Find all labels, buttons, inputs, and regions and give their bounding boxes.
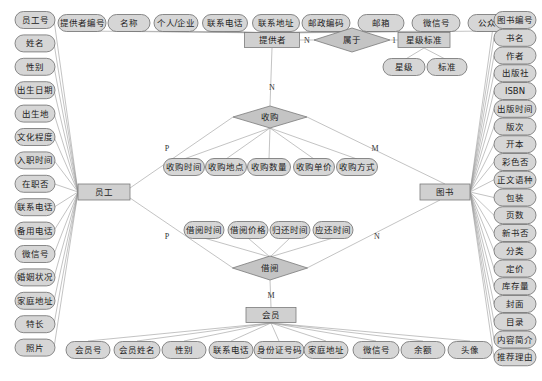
book-attribute[interactable]: 出版社 <box>494 65 536 82</box>
book-attribute[interactable]: 正文语种 <box>494 171 536 188</box>
connector-line <box>271 323 470 341</box>
book-attribute[interactable]: 推荐理由 <box>494 349 536 366</box>
member-attribute[interactable]: 微信号 <box>353 342 399 359</box>
member-attribute[interactable]: 家庭地址 <box>304 342 348 359</box>
provider-attribute[interactable]: 邮政编码 <box>302 15 350 32</box>
book-attribute-label: 新书否 <box>502 228 529 238</box>
cardinality-label: M <box>267 291 274 300</box>
entity-book-label: 图书 <box>436 187 454 197</box>
relationship-purchase[interactable]: 收购 <box>233 106 307 128</box>
connector-line <box>54 67 78 192</box>
employee-attribute[interactable]: 出生地 <box>15 105 55 122</box>
provider-attribute[interactable]: 联系电话 <box>203 15 248 32</box>
employee-attribute[interactable]: 员工号 <box>15 12 55 29</box>
provider-attribute[interactable]: 提供者编号 <box>58 15 106 32</box>
entity-book[interactable]: 图书 <box>420 184 470 200</box>
provider-attribute[interactable]: 微信号 <box>412 15 460 32</box>
book-attribute[interactable]: 开本 <box>494 136 536 153</box>
book-attribute[interactable]: 包装 <box>494 189 536 206</box>
book-attribute[interactable]: 新书否 <box>494 225 536 242</box>
entity-provider[interactable]: 提供者 <box>245 33 300 48</box>
employee-attribute[interactable]: 家庭地址 <box>15 292 55 309</box>
provider-attribute[interactable]: 联系地址 <box>253 15 300 32</box>
book-attribute[interactable]: 作者 <box>494 47 536 64</box>
connector-line <box>184 128 270 159</box>
connector-line <box>269 128 270 159</box>
connector-line <box>470 192 494 286</box>
book-attribute[interactable]: 定价 <box>494 260 536 277</box>
member-attribute[interactable]: 头像 <box>448 342 492 359</box>
employee-attribute[interactable]: 入职时间 <box>15 152 55 169</box>
book-attribute[interactable]: 页数 <box>494 207 536 224</box>
borrow-attribute[interactable]: 借阅时间 <box>184 222 224 239</box>
employee-attribute[interactable]: 照片 <box>15 339 55 356</box>
star-standard-attribute[interactable]: 标准 <box>427 59 467 76</box>
connector-line <box>130 117 233 188</box>
employee-attribute-label: 员工号 <box>22 15 49 25</box>
book-attribute[interactable]: 彩色否 <box>494 154 536 171</box>
book-attribute[interactable]: 版次 <box>494 118 536 135</box>
employee-attribute[interactable]: 微信号 <box>15 246 55 263</box>
member-attribute[interactable]: 余额 <box>401 342 445 359</box>
member-attribute[interactable]: 身份证号码 <box>254 342 304 359</box>
member-attribute[interactable]: 会员号 <box>66 342 110 359</box>
book-attribute[interactable]: 库存量 <box>494 278 536 295</box>
provider-attribute[interactable]: 邮箱 <box>358 15 404 32</box>
entity-member[interactable]: 会员 <box>246 308 296 323</box>
purchase-attribute-label: 收购数量 <box>251 162 287 172</box>
employee-attribute-label: 入职时间 <box>17 155 53 165</box>
entity-employee[interactable]: 员工 <box>78 184 130 200</box>
employee-attribute[interactable]: 出生日期 <box>15 82 55 99</box>
connector-line <box>54 114 78 192</box>
book-attribute[interactable]: 出版时间 <box>494 100 536 117</box>
purchase-attribute[interactable]: 收购数量 <box>248 159 291 176</box>
connector-line <box>54 184 78 192</box>
book-attribute[interactable]: 分类 <box>494 242 536 259</box>
book-attribute-label: 目录 <box>506 317 524 327</box>
star-standard-attribute[interactable]: 星级 <box>383 59 425 76</box>
book-attribute-label: 内容简介 <box>497 335 533 345</box>
provider-attribute[interactable]: 名称 <box>108 15 150 32</box>
connector-line <box>470 192 494 340</box>
borrow-attribute[interactable]: 应还时间 <box>313 222 353 239</box>
book-attribute[interactable]: ISBN <box>494 83 536 100</box>
member-attribute[interactable]: 联系电话 <box>209 342 253 359</box>
employee-attribute[interactable]: 婚姻状况 <box>15 269 55 286</box>
book-attribute[interactable]: 内容简介 <box>494 331 536 348</box>
provider-attribute[interactable]: 个人/企业 <box>154 15 198 32</box>
connector-line <box>271 323 279 341</box>
employee-attribute-label: 性别 <box>26 62 44 72</box>
borrow-attribute[interactable]: 借阅价格 <box>228 222 268 239</box>
purchase-attribute[interactable]: 收购地点 <box>206 159 247 176</box>
entity-star-standard[interactable]: 星级标准 <box>398 33 450 48</box>
cardinality-label: 1 <box>392 36 396 45</box>
book-attribute-label: 分类 <box>506 246 524 256</box>
employee-attribute-label: 文化程度 <box>17 132 53 142</box>
employee-attribute[interactable]: 特长 <box>15 316 55 333</box>
connector-line <box>470 192 494 251</box>
purchase-attribute[interactable]: 收购时间 <box>164 159 205 176</box>
entity-star-standard-label: 星级标准 <box>406 35 442 45</box>
purchase-attribute[interactable]: 收购方式 <box>337 159 378 176</box>
book-attribute[interactable]: 封面 <box>494 296 536 313</box>
borrow-attribute[interactable]: 归还时间 <box>270 222 310 239</box>
employee-attribute[interactable]: 联系电话 <box>15 199 55 216</box>
book-attribute[interactable]: 图书编号 <box>494 12 536 29</box>
member-attribute[interactable]: 性别 <box>162 342 206 359</box>
connector-line <box>470 192 494 357</box>
relationship-borrow-label: 借阅 <box>261 263 279 273</box>
employee-attribute[interactable]: 文化程度 <box>15 129 55 146</box>
cardinality-label: P <box>165 232 170 241</box>
member-attribute[interactable]: 会员姓名 <box>114 342 160 359</box>
employee-attribute[interactable]: 在职否 <box>15 175 55 192</box>
employee-attribute[interactable]: 备用电话 <box>15 222 55 239</box>
relationship-borrow[interactable]: 借阅 <box>233 256 308 280</box>
book-attribute-label: 库存量 <box>502 281 529 291</box>
book-attribute-label: 页数 <box>506 210 524 220</box>
employee-attribute[interactable]: 性别 <box>15 58 55 75</box>
book-attribute[interactable]: 书名 <box>494 29 536 46</box>
book-attribute[interactable]: 目录 <box>494 313 536 330</box>
employee-attribute[interactable]: 姓名 <box>15 35 55 52</box>
purchase-attribute[interactable]: 收购单价 <box>294 159 335 176</box>
connector-line <box>184 323 271 341</box>
